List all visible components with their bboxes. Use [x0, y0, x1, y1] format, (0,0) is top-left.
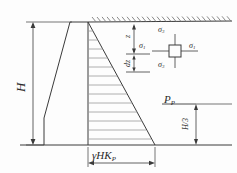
sigma-bottom-subscript: 3 — [162, 64, 164, 69]
ground-surface — [88, 16, 232, 22]
label-base-pressure: γHKP — [92, 150, 116, 162]
label-sigma-top: σ3 — [158, 26, 164, 35]
diagram-canvas — [0, 0, 237, 173]
base-pressure-subscript: P — [112, 155, 116, 162]
lever-arm-dimension — [194, 104, 198, 145]
resultant-force-subscript: P — [171, 99, 175, 106]
label-sigma-left: σ1 — [139, 42, 145, 51]
sigma-top-subscript: 3 — [162, 29, 164, 34]
pressure-triangle — [88, 22, 155, 145]
resultant-force-symbol: P — [164, 93, 171, 105]
depth-dimension-z — [132, 24, 136, 54]
label-wall-height: H — [14, 83, 27, 92]
passive-earth-pressure-diagram: H z dz σ3 σ1 σ1 σ3 PP H/3 γHKP — [0, 0, 237, 173]
label-sigma-right: σ1 — [189, 42, 195, 51]
retaining-wall — [44, 22, 88, 145]
stress-element-square — [169, 45, 181, 57]
sigma-right-subscript: 1 — [193, 45, 195, 50]
sigma-left-subscript: 1 — [143, 45, 145, 50]
label-element-thickness: dz — [124, 60, 132, 67]
label-lever-arm: H/3 — [182, 118, 190, 130]
label-depth-z: z — [124, 35, 132, 38]
label-sigma-bottom: σ3 — [158, 61, 164, 70]
label-resultant-force: PP — [164, 94, 175, 106]
base-pressure-symbol: γHK — [92, 149, 112, 161]
